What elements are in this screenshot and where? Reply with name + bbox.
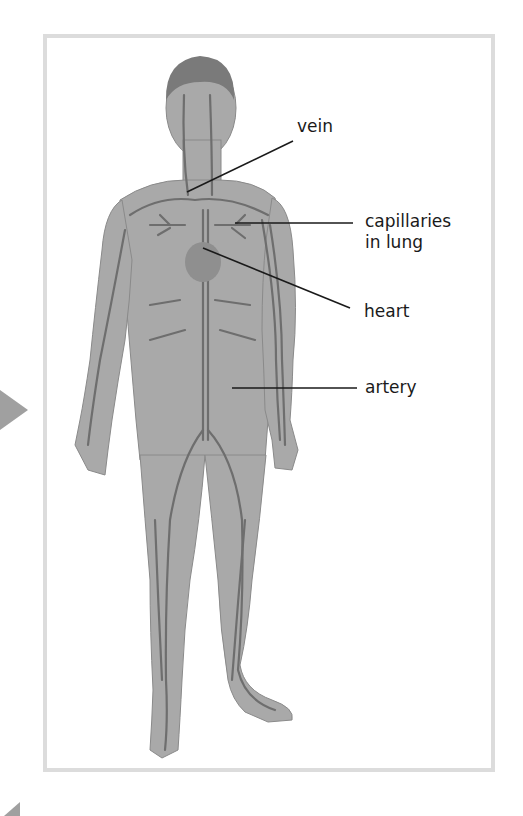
label-capillaries: capillaries in lung bbox=[365, 211, 451, 253]
circulatory-system-figure bbox=[0, 0, 523, 816]
body-silhouette bbox=[75, 58, 298, 758]
label-heart: heart bbox=[364, 301, 409, 322]
label-artery: artery bbox=[365, 377, 417, 398]
label-capillaries-line1: capillaries bbox=[365, 211, 451, 232]
next-arrow-icon[interactable] bbox=[0, 385, 32, 435]
label-capillaries-line2: in lung bbox=[365, 232, 451, 253]
previous-arrow-icon[interactable] bbox=[0, 800, 22, 816]
label-vein: vein bbox=[297, 116, 333, 137]
